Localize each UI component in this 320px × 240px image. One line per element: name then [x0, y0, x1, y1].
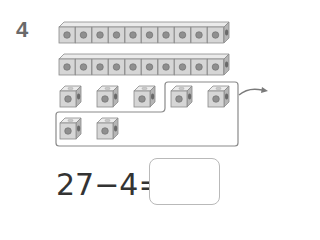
- single-cubes-row-4: [60, 118, 118, 139]
- take-away-arrow-icon: [239, 87, 268, 95]
- equation: 27−4=: [56, 168, 164, 202]
- ten-bar-1: [59, 22, 229, 43]
- single-cubes-row-3: [60, 86, 229, 107]
- ten-bar-2: [59, 54, 229, 75]
- answer-box[interactable]: [149, 158, 220, 205]
